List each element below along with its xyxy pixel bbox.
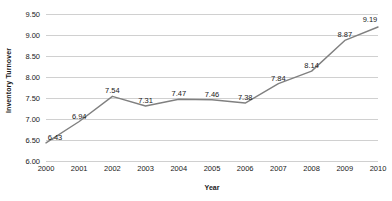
data-point-label: 6.94: [72, 112, 87, 121]
data-point-label: 8.87: [337, 30, 352, 39]
y-axis-tick-label: 8.50: [10, 52, 40, 61]
x-axis-tick-label: 2008: [303, 164, 320, 173]
data-point-label: 6.43: [48, 133, 63, 142]
data-point-label: 7.84: [271, 74, 286, 83]
y-axis-tick-label: 7.50: [10, 94, 40, 103]
data-point-label: 7.31: [138, 96, 153, 105]
x-axis-tick-label: 2010: [370, 164, 387, 173]
data-point-label: 7.54: [105, 86, 120, 95]
data-point-label: 7.38: [238, 93, 253, 102]
x-axis-tick-label: 2007: [270, 164, 287, 173]
data-point-label: 7.47: [171, 89, 186, 98]
y-axis-tick-label: 6.00: [10, 157, 40, 166]
plot-area: 6.006.507.007.508.008.509.009.50 6.436.9…: [46, 14, 378, 161]
x-axis-title: Year: [46, 184, 378, 191]
data-point-label: 7.46: [205, 90, 220, 99]
y-axis-tick-label: 6.50: [10, 136, 40, 145]
gridline: [46, 161, 378, 162]
x-axis-tick-label: 2003: [137, 164, 154, 173]
data-point-label: 9.19: [363, 15, 378, 24]
x-axis-tick-label: 2002: [104, 164, 121, 173]
line-series-inventory-turnover: [46, 14, 378, 161]
x-axis-tick-label: 2009: [336, 164, 353, 173]
data-point-label: 8.14: [304, 61, 319, 70]
y-axis-tick-label: 9.50: [10, 10, 40, 19]
chart-container: Inventory Turnover 6.006.507.007.508.008…: [0, 0, 392, 201]
x-axis-tick-label: 2000: [38, 164, 55, 173]
y-axis-tick-label: 8.00: [10, 73, 40, 82]
x-axis-tick-label: 2006: [237, 164, 254, 173]
x-axis-tick-label: 2005: [204, 164, 221, 173]
x-axis-tick-label: 2001: [71, 164, 88, 173]
y-axis-tick-label: 9.00: [10, 31, 40, 40]
y-axis-tick-label: 7.00: [10, 115, 40, 124]
series-line: [46, 27, 378, 143]
x-axis-tick-label: 2004: [170, 164, 187, 173]
